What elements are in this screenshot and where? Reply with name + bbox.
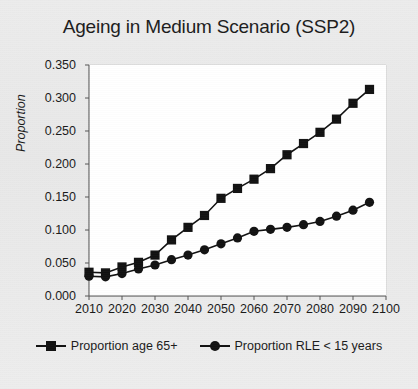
- chart-figure: Ageing in Medium Scenario (SSP2) Proport…: [0, 0, 418, 389]
- x-tick-label: 2080: [306, 302, 334, 316]
- plot-area-wrapper: Proportion 0.0000.0500.1000.1500.2000.25…: [0, 0, 418, 389]
- y-tick-label: 0.150: [32, 190, 76, 204]
- x-tick-label: 2090: [339, 302, 367, 316]
- y-tick-label: 0.300: [32, 91, 76, 105]
- legend-item-label: Proportion age 65+: [71, 339, 178, 353]
- y-tick-label: 0.050: [32, 256, 76, 270]
- y-axis-tick-labels: 0.0000.0500.1000.1500.2000.2500.3000.350: [24, 0, 76, 389]
- circle-marker-icon: [200, 340, 230, 352]
- x-tick-label: 2040: [174, 302, 202, 316]
- x-tick-label: 2020: [108, 302, 136, 316]
- y-tick-label: 0.000: [32, 289, 76, 303]
- legend-item-label: Proportion RLE < 15 years: [235, 339, 383, 353]
- chart-legend: Proportion age 65+Proportion RLE < 15 ye…: [0, 339, 418, 353]
- square-marker-icon-glyph: [46, 341, 56, 351]
- x-tick-label: 2100: [372, 302, 400, 316]
- x-tick-label: 2060: [240, 302, 268, 316]
- y-tick-label: 0.200: [32, 157, 76, 171]
- y-tick-label: 0.250: [32, 124, 76, 138]
- x-tick-label: 2010: [75, 302, 103, 316]
- legend-item: Proportion RLE < 15 years: [200, 339, 383, 353]
- circle-marker-icon-glyph: [210, 341, 220, 351]
- legend-item: Proportion age 65+: [36, 339, 178, 353]
- plot-frame: [89, 65, 386, 296]
- x-tick-label: 2050: [207, 302, 235, 316]
- square-marker-icon: [36, 340, 66, 352]
- y-tick-label: 0.350: [32, 58, 76, 72]
- x-tick-label: 2030: [141, 302, 169, 316]
- x-tick-label: 2070: [273, 302, 301, 316]
- y-tick-label: 0.100: [32, 223, 76, 237]
